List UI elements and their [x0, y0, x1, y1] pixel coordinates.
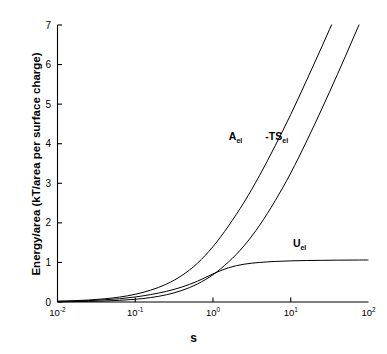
curve-label-ael: Ael: [229, 130, 242, 144]
chart-svg: 0123456710-210-1100101102 Ael-TSelUel: [0, 0, 387, 354]
y-tick-label-6: 6: [45, 59, 51, 70]
y-tick-label-1: 1: [45, 257, 51, 268]
curve-uel: [58, 260, 369, 301]
tick-labels-group: 0123456710-210-1100101102: [45, 20, 376, 318]
x-tick-label-0: 10-2: [49, 306, 66, 318]
x-axis-label: s: [0, 331, 387, 345]
y-tick-label-5: 5: [45, 99, 51, 110]
x-tick-label-2: 100: [206, 306, 221, 318]
curve-label-uel: Uel: [293, 237, 306, 251]
chart-figure: 0123456710-210-1100101102 Ael-TSelUel En…: [0, 0, 387, 354]
y-tick-label-7: 7: [45, 20, 51, 31]
curve-label-tsel: -TSel: [265, 130, 288, 144]
y-tick-label-4: 4: [45, 138, 51, 149]
y-tick-label-3: 3: [45, 178, 51, 189]
x-tick-label-3: 101: [284, 306, 299, 318]
curve-ael: [58, 0, 369, 301]
x-tick-label-4: 102: [361, 306, 376, 318]
y-axis-label: Energy/area (kT/area per surface charge): [30, 24, 42, 304]
curves-group: [58, 0, 369, 302]
x-tick-label-1: 10-1: [127, 306, 144, 318]
curve-annotations-group: Ael-TSelUel: [229, 130, 307, 252]
y-tick-label-2: 2: [45, 217, 51, 228]
y-tick-label-0: 0: [45, 297, 51, 308]
